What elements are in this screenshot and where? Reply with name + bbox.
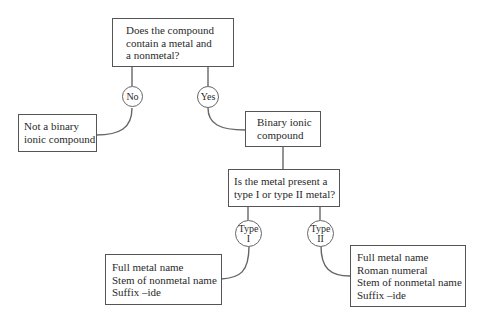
question-metal-nonmetal-box: Does the compound contain a metal and a … xyxy=(112,18,234,67)
text-line: Not a binary xyxy=(24,120,96,133)
text-line: Suffix –ide xyxy=(357,289,465,302)
text-line: ionic compound xyxy=(24,133,96,146)
text-line: Type xyxy=(311,224,331,234)
question-metal-type-box: Is the metal present a type I or type II… xyxy=(228,169,340,207)
text-line: Full metal name xyxy=(112,261,221,274)
text-line: Binary ionic xyxy=(257,116,320,129)
text-line: type I or type II metal? xyxy=(234,188,339,201)
text-line: Is the metal present a xyxy=(234,175,339,188)
type-i-naming-rules-box: Full metal name Stem of nonmetal name Su… xyxy=(105,254,222,305)
text-line: Full metal name xyxy=(357,251,465,264)
text-line: Stem of nonmetal name xyxy=(112,274,221,287)
text-line: I xyxy=(247,234,250,244)
text-line: Yes xyxy=(201,92,216,102)
text-line: II xyxy=(317,234,324,244)
type-ii-naming-rules-box: Full metal name Roman numeral Stem of no… xyxy=(350,245,466,307)
text-line: compound xyxy=(257,129,320,142)
no-branch-label: No xyxy=(122,86,143,107)
text-line: No xyxy=(126,92,138,102)
type-ii-branch-label: Type II xyxy=(307,220,334,247)
text-line: a nonmetal? xyxy=(126,49,233,62)
text-line: Type xyxy=(239,224,259,234)
type-i-branch-label: Type I xyxy=(235,220,262,247)
text-line: contain a metal and xyxy=(126,37,233,50)
binary-ionic-box: Binary ionic compound xyxy=(245,111,321,147)
not-binary-ionic-box: Not a binary ionic compound xyxy=(18,114,97,152)
text-line: Does the compound xyxy=(126,24,233,37)
text-line: Suffix –ide xyxy=(112,286,221,299)
text-line: Roman numeral xyxy=(357,264,465,277)
text-line: Stem of nonmetal name xyxy=(357,276,465,289)
yes-branch-label: Yes xyxy=(197,86,219,108)
